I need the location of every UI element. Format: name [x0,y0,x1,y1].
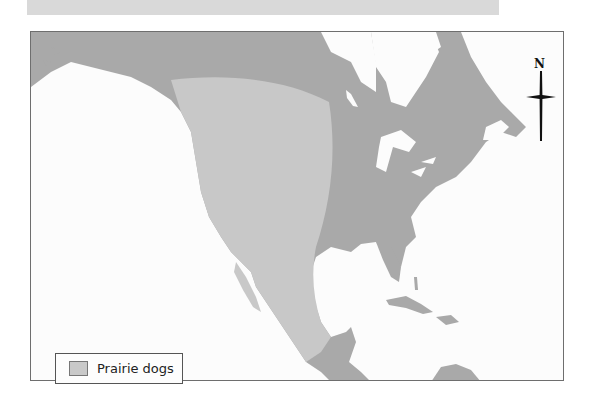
compass: N [526,57,556,141]
legend-label-prairie-dogs: Prairie dogs [97,361,174,376]
north-america-map [31,32,564,381]
compass-north-label: N [534,57,545,71]
land-south-america [431,364,481,381]
land-hispaniola [436,315,459,325]
legend-swatch-prairie-dogs [69,361,88,376]
map-frame: N [30,31,564,381]
land-bahamas [414,277,418,290]
header-band [27,0,499,15]
land-cuba [386,296,433,314]
prairie-dog-range [171,77,333,362]
map-legend: Prairie dogs [55,353,183,384]
compass-star-icon [526,71,556,155]
